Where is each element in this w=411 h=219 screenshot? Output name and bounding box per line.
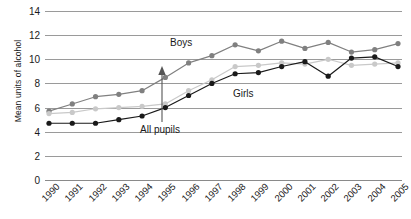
y-tick-label-12: 12 — [14, 30, 40, 41]
data-point-girls-1990 — [46, 111, 51, 116]
data-point-all-pupils-1996 — [186, 93, 191, 98]
data-point-boys-1996 — [186, 60, 191, 65]
data-point-all-pupils-1994 — [139, 113, 144, 118]
x-tick-label-2005: 2005 — [388, 181, 411, 204]
data-point-all-pupils-1990 — [46, 121, 51, 126]
x-tick-label-1996: 1996 — [179, 181, 202, 204]
data-point-girls-1991 — [70, 110, 75, 115]
data-point-boys-2002 — [326, 40, 331, 45]
boys-series-label: Boys — [170, 37, 192, 48]
series-line-boys — [49, 41, 398, 111]
data-point-all-pupils-1999 — [256, 70, 261, 75]
data-point-girls-2004 — [372, 62, 377, 67]
girls-series-label: Girls — [233, 88, 254, 99]
data-point-all-pupils-2000 — [279, 64, 284, 69]
x-axis-tick-labels: 1990199119921993199419951996199719981999… — [45, 181, 402, 219]
plot-area — [45, 11, 402, 180]
data-point-all-pupils-1991 — [70, 121, 75, 126]
y-tick-label-2: 2 — [14, 150, 40, 161]
data-point-girls-1999 — [256, 63, 261, 68]
y-tick-label-6: 6 — [14, 102, 40, 113]
data-point-all-pupils-1998 — [233, 71, 238, 76]
y-tick-label-4: 4 — [14, 126, 40, 137]
data-point-girls-2003 — [349, 63, 354, 68]
x-tick-label-1992: 1992 — [86, 181, 109, 204]
data-point-girls-1993 — [116, 105, 121, 110]
data-point-boys-1998 — [233, 42, 238, 47]
y-tick-label-0: 0 — [14, 175, 40, 186]
series-lines — [45, 11, 402, 180]
data-point-boys-1994 — [139, 88, 144, 93]
data-point-boys-1991 — [70, 101, 75, 106]
x-tick-label-2002: 2002 — [318, 181, 341, 204]
x-tick-label-1991: 1991 — [62, 181, 85, 204]
data-point-all-pupils-1992 — [93, 121, 98, 126]
y-tick-label-8: 8 — [14, 78, 40, 89]
data-point-boys-1995 — [163, 75, 168, 80]
data-point-boys-2001 — [302, 46, 307, 51]
data-point-all-pupils-1993 — [116, 117, 121, 122]
x-tick-label-1994: 1994 — [132, 181, 155, 204]
data-point-girls-1992 — [93, 106, 98, 111]
data-point-boys-1997 — [209, 53, 214, 58]
data-point-all-pupils-1997 — [209, 81, 214, 86]
all-pupils-series-label: All pupils — [140, 124, 180, 135]
y-tick-label-14: 14 — [14, 6, 40, 17]
y-axis-tick-labels: 14121086420 — [14, 0, 40, 219]
x-tick-label-2003: 2003 — [342, 181, 365, 204]
data-point-boys-2004 — [372, 47, 377, 52]
x-tick-label-2004: 2004 — [365, 181, 388, 204]
data-point-boys-2005 — [395, 41, 400, 46]
x-tick-label-1999: 1999 — [248, 181, 271, 204]
x-tick-label-1990: 1990 — [39, 181, 62, 204]
x-tick-label-2001: 2001 — [295, 181, 318, 204]
data-point-boys-1993 — [116, 92, 121, 97]
data-point-all-pupils-1995 — [163, 105, 168, 110]
x-tick-label-1997: 1997 — [202, 181, 225, 204]
x-tick-label-2000: 2000 — [272, 181, 295, 204]
x-tick-label-1998: 1998 — [225, 181, 248, 204]
data-point-girls-1996 — [186, 88, 191, 93]
data-point-boys-2000 — [279, 39, 284, 44]
data-point-boys-1999 — [256, 48, 261, 53]
data-point-girls-1998 — [233, 64, 238, 69]
data-point-all-pupils-2003 — [349, 55, 354, 60]
x-tick-label-1995: 1995 — [155, 181, 178, 204]
series-line-all-pupils — [49, 57, 398, 123]
data-point-boys-1992 — [93, 94, 98, 99]
data-point-all-pupils-2005 — [395, 64, 400, 69]
data-point-girls-1994 — [139, 104, 144, 109]
data-point-all-pupils-2002 — [326, 74, 331, 79]
data-point-all-pupils-2001 — [302, 59, 307, 64]
data-point-all-pupils-2004 — [372, 54, 377, 59]
y-tick-label-10: 10 — [14, 54, 40, 65]
data-point-boys-2003 — [349, 49, 354, 54]
series-line-girls — [49, 59, 398, 113]
x-tick-label-1993: 1993 — [109, 181, 132, 204]
data-point-girls-2002 — [326, 57, 331, 62]
